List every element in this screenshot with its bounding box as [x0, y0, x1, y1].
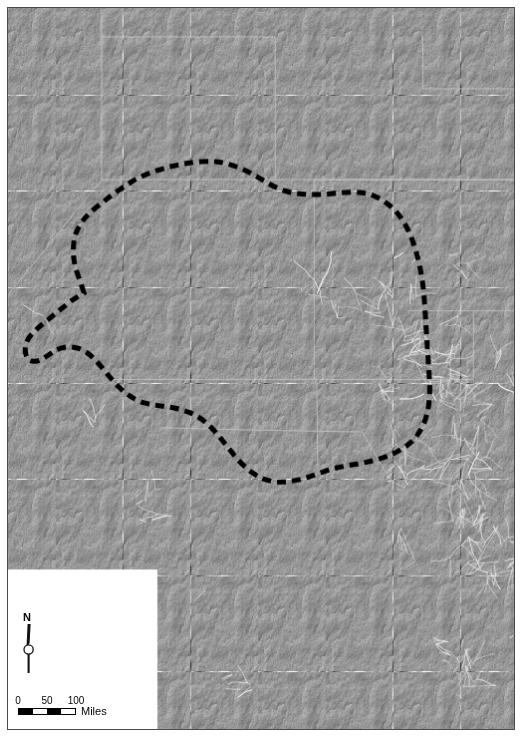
north-arrow: N N [15, 609, 45, 681]
scale-bar-segment [19, 709, 33, 714]
map-frame: N N 0 50 100 Miles [7, 7, 515, 730]
map-figure: N N 0 50 100 Miles [0, 0, 523, 738]
scale-bar-segment [47, 709, 61, 714]
scale-bar-ticks: 0 50 100 [15, 695, 145, 708]
north-arrow-label: N [23, 611, 31, 623]
scale-bar-segment [61, 709, 75, 714]
north-arrow-icon: N [15, 609, 45, 681]
scale-bar: 0 50 100 Miles [15, 695, 145, 723]
scale-bar-segments [18, 708, 76, 715]
scale-bar-units: Miles [81, 705, 107, 717]
scale-bar-segment [33, 709, 47, 714]
scale-tick-0: 0 [15, 695, 21, 707]
scale-tick-50: 50 [41, 695, 52, 707]
shaded-relief-basemap [8, 8, 514, 729]
